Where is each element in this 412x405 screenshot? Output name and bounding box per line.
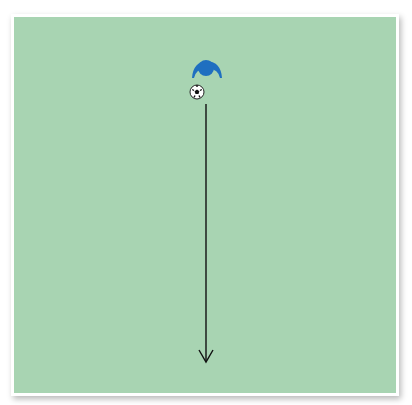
pass-arrow bbox=[199, 104, 213, 362]
player-icon bbox=[192, 60, 222, 78]
drill-overlay bbox=[0, 0, 412, 405]
soccer-ball-icon bbox=[190, 85, 204, 99]
